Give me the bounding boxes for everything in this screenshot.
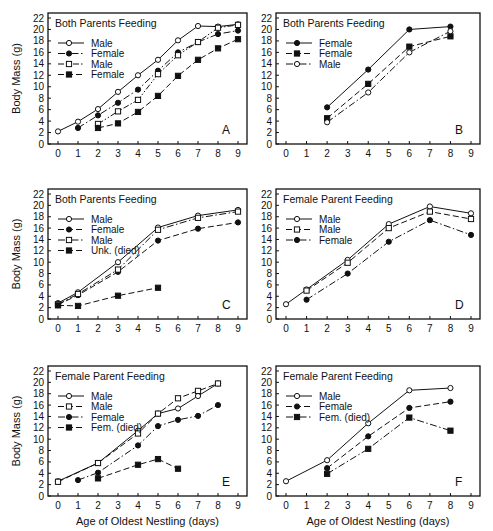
series-line	[327, 418, 450, 474]
data-point-marker	[195, 226, 200, 231]
y-tick-label: 16	[33, 47, 45, 58]
x-tick-label: 8	[215, 323, 221, 334]
data-point-marker	[55, 479, 60, 484]
legend-label: Fem. (died)	[91, 422, 142, 433]
legend-item: Male	[286, 59, 341, 70]
legend-label: Male	[91, 235, 113, 246]
series-line	[58, 24, 238, 131]
legend-label: Female	[319, 235, 353, 246]
y-tick-label: 20	[33, 24, 45, 35]
data-point-marker	[75, 119, 80, 124]
legend-item: Female	[286, 401, 353, 412]
data-point-marker	[155, 227, 160, 232]
legend-marker	[66, 40, 71, 45]
chart-panel-a: 02468101214161820220123456789Body Mass (…	[10, 13, 247, 160]
legend-item: Male	[58, 214, 113, 225]
y-tick-label: 6	[38, 104, 44, 115]
y-tick-label: 10	[33, 434, 45, 445]
data-point-marker	[427, 209, 432, 214]
panel-letter: B	[455, 123, 463, 137]
chart-panel-b: 02468101214161820220123456789Both Parent…	[261, 13, 480, 160]
data-point-marker	[155, 57, 160, 62]
y-tick-label: 2	[266, 479, 272, 490]
legend-label: Female	[319, 48, 353, 59]
y-tick-label: 0	[266, 314, 272, 325]
series-fem-died	[95, 456, 180, 481]
legend-label: Male	[91, 401, 113, 412]
x-tick-label: 6	[407, 500, 413, 511]
y-tick-label: 8	[38, 93, 44, 104]
y-tick-label: 18	[33, 35, 45, 46]
legend-item: Male	[58, 38, 113, 49]
legend-item: Male	[58, 59, 113, 70]
data-point-marker	[407, 415, 412, 420]
plot-frame	[48, 189, 247, 319]
y-tick-label: 8	[38, 268, 44, 279]
x-tick-label: 0	[55, 500, 61, 511]
x-tick-label: 5	[155, 323, 161, 334]
data-point-marker	[325, 105, 330, 110]
legend-marker	[294, 393, 299, 398]
y-tick-label: 14	[261, 234, 273, 245]
y-tick-label: 8	[266, 93, 272, 104]
y-tick-label: 12	[261, 245, 273, 256]
chart-panel-c: 02468101214161820220123456789Body Mass (…	[10, 189, 247, 335]
data-point-marker	[135, 73, 140, 78]
data-point-marker	[325, 458, 330, 463]
legend-label: Male	[319, 391, 341, 402]
x-tick-label: 5	[386, 500, 392, 511]
legend-marker	[294, 216, 299, 221]
y-tick-label: 12	[33, 70, 45, 81]
legend: MaleMaleFemaleFem. (died)	[58, 391, 142, 434]
data-point-marker	[155, 285, 160, 290]
y-tick-label: 14	[33, 234, 45, 245]
legend: MaleFemaleMaleUnk. (died)	[58, 214, 140, 257]
data-point-marker	[135, 462, 140, 467]
y-tick-label: 20	[33, 377, 45, 388]
y-tick-label: 4	[266, 291, 272, 302]
legend-label: Male	[91, 59, 113, 70]
data-point-marker	[75, 303, 80, 308]
y-tick-label: 10	[33, 81, 45, 92]
x-tick-label: 2	[324, 500, 330, 511]
data-point-marker	[427, 218, 432, 223]
legend-item: Male	[58, 401, 113, 412]
legend: MaleFemaleMaleFemale	[58, 38, 125, 81]
legend-marker	[66, 414, 71, 419]
y-tick-label: 2	[266, 302, 272, 313]
legend-marker	[66, 61, 71, 66]
data-point-marker	[345, 260, 350, 265]
data-point-marker	[468, 211, 473, 216]
legend-marker	[66, 425, 71, 430]
y-tick-label: 22	[261, 13, 273, 24]
y-axis-label: Body Mass (g)	[10, 43, 22, 114]
legend-marker	[66, 216, 71, 221]
y-tick-label: 16	[261, 400, 273, 411]
data-point-marker	[195, 39, 200, 44]
legend-item: Female	[58, 69, 125, 80]
x-tick-label: 2	[95, 323, 101, 334]
legend-marker	[294, 414, 299, 419]
y-tick-label: 4	[38, 468, 44, 479]
legend-marker	[66, 248, 71, 253]
y-tick-label: 20	[261, 377, 273, 388]
legend-marker	[66, 51, 71, 56]
data-point-marker	[448, 29, 453, 34]
y-tick-label: 20	[261, 24, 273, 35]
x-tick-label: 3	[345, 323, 351, 334]
data-point-marker	[95, 476, 100, 481]
data-point-marker	[95, 460, 100, 465]
y-tick-label: 16	[33, 400, 45, 411]
y-tick-label: 0	[38, 139, 44, 150]
legend-item: Fem. (died)	[58, 422, 142, 433]
y-tick-label: 10	[261, 257, 273, 268]
data-point-marker	[366, 446, 371, 451]
x-tick-label: 9	[468, 323, 474, 334]
legend-item: Male	[58, 391, 113, 402]
data-point-marker	[175, 466, 180, 471]
data-point-marker	[195, 393, 200, 398]
x-tick-label: 3	[115, 148, 121, 159]
x-axis-label: Age of Oldest Nestling (days)	[306, 515, 449, 527]
chart-panel-e: 02468101214161820220123456789Body Mass (…	[10, 366, 247, 528]
data-point-marker	[304, 288, 309, 293]
